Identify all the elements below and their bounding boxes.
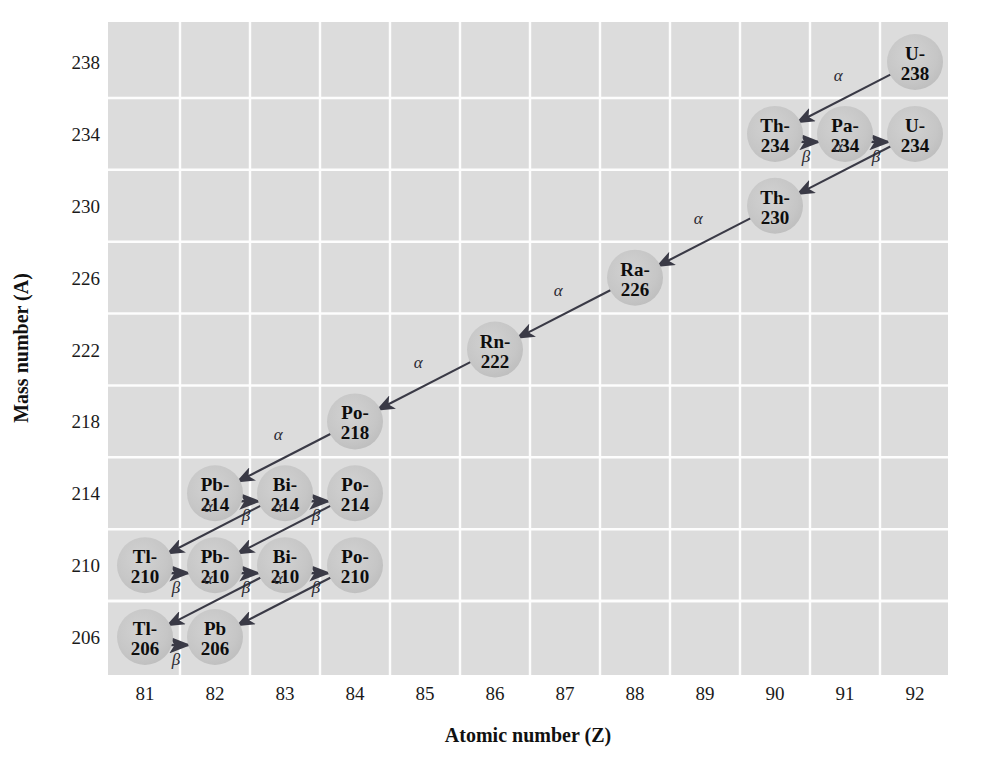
node-label-element: Po- <box>341 474 368 495</box>
isotope-node-u234[interactable]: U-234 <box>887 106 943 162</box>
node-label-element: Ra- <box>620 259 650 280</box>
node-label-mass: 210 <box>341 566 370 587</box>
node-label-mass: 234 <box>901 135 930 156</box>
isotope-node-po214[interactable]: Po-214 <box>327 465 383 521</box>
x-tick-label: 85 <box>416 683 435 704</box>
node-label-element: Pb- <box>201 474 230 495</box>
node-label-mass: 206 <box>201 638 230 659</box>
x-tick-label: 86 <box>486 683 505 704</box>
node-label-mass: 230 <box>761 207 790 228</box>
x-tick-label: 82 <box>206 683 225 704</box>
decay-label-alpha: α <box>274 569 284 588</box>
node-label-mass: 214 <box>341 494 370 515</box>
decay-label-alpha: α <box>274 425 284 444</box>
decay-label-beta: β <box>241 578 251 597</box>
node-label-element: U- <box>905 115 925 136</box>
node-label-element: Th- <box>760 115 790 136</box>
decay-label-beta: β <box>171 578 181 597</box>
isotope-node-pb214[interactable]: Pb-214 <box>187 465 243 521</box>
node-label-mass: 222 <box>481 351 510 372</box>
x-tick-label: 90 <box>766 683 785 704</box>
decay-label-beta: β <box>801 147 811 166</box>
y-tick-label: 214 <box>72 483 101 504</box>
decay-label-alpha: α <box>204 569 214 588</box>
node-label-mass: 206 <box>131 638 160 659</box>
decay-label-alpha: α <box>414 353 424 372</box>
node-label-element: Pa- <box>831 115 858 136</box>
y-tick-label: 238 <box>72 52 101 73</box>
x-tick-label: 91 <box>836 683 855 704</box>
node-label-mass: 238 <box>901 63 930 84</box>
decay-label-alpha: α <box>204 497 214 516</box>
decay-label-beta: β <box>171 650 181 669</box>
decay-label-alpha: α <box>554 281 564 300</box>
y-tick-label: 206 <box>72 627 101 648</box>
isotope-node-pa234[interactable]: Pa-234 <box>817 106 873 162</box>
y-tick-label: 222 <box>72 340 101 361</box>
node-label-mass: 234 <box>761 135 790 156</box>
node-label-element: U- <box>905 43 925 64</box>
node-label-element: Bi- <box>273 474 297 495</box>
x-tick-label: 81 <box>136 683 155 704</box>
node-label-element: Pb- <box>201 546 230 567</box>
x-tick-label: 84 <box>346 683 366 704</box>
decay-label-beta: β <box>311 578 321 597</box>
y-tick-label: 210 <box>72 555 101 576</box>
y-tick-label: 234 <box>72 124 101 145</box>
x-tick-label: 83 <box>276 683 295 704</box>
y-axis-title: Mass number (A) <box>10 273 33 423</box>
isotope-node-bi214[interactable]: Bi-214 <box>257 465 313 521</box>
isotope-node-rn222[interactable]: Rn-222 <box>467 322 523 378</box>
decay-label-alpha: α <box>274 497 284 516</box>
decay-label-alpha: α <box>834 66 844 85</box>
y-tick-label: 230 <box>72 196 101 217</box>
node-label-element: Po- <box>341 402 368 423</box>
node-label-mass: 226 <box>621 279 650 300</box>
decay-series-figure: 238234230226222218214210206 818283848586… <box>0 0 992 770</box>
node-label-element: Rn- <box>480 331 511 352</box>
isotope-node-th230[interactable]: Th-230 <box>747 178 803 234</box>
x-axis-title: Atomic number (Z) <box>445 724 611 747</box>
isotope-node-po210[interactable]: Po-210 <box>327 537 383 593</box>
isotope-node-pb206[interactable]: Pb206 <box>187 609 243 665</box>
isotope-node-ra226[interactable]: Ra-226 <box>607 250 663 306</box>
node-label-element: Bi- <box>273 546 297 567</box>
node-label-element: Po- <box>341 546 368 567</box>
node-label-element: Tl- <box>133 546 157 567</box>
isotope-node-tl210[interactable]: Tl-210 <box>117 537 173 593</box>
decay-label-alpha: α <box>694 209 704 228</box>
decay-label-alpha: α <box>834 137 844 156</box>
y-tick-label: 226 <box>72 268 101 289</box>
x-tick-label: 88 <box>626 683 645 704</box>
isotope-node-pb210[interactable]: Pb-210 <box>187 537 243 593</box>
x-tick-label: 87 <box>556 683 575 704</box>
y-tick-label: 218 <box>72 411 101 432</box>
node-label-mass: 210 <box>131 566 160 587</box>
isotope-node-po218[interactable]: Po-218 <box>327 393 383 449</box>
y-axis-ticks: 238234230226222218214210206 <box>72 52 101 648</box>
decay-label-beta: β <box>871 147 881 166</box>
node-label-mass: 218 <box>341 422 370 443</box>
node-label-element: Tl- <box>133 618 157 639</box>
decay-label-beta: β <box>311 506 321 525</box>
x-tick-label: 89 <box>696 683 715 704</box>
isotope-node-th234[interactable]: Th-234 <box>747 106 803 162</box>
decay-label-beta: β <box>241 506 251 525</box>
node-label-element: Th- <box>760 187 790 208</box>
node-label-element: Pb <box>204 618 226 639</box>
decay-series-chart: 238234230226222218214210206 818283848586… <box>0 0 992 770</box>
isotope-node-bi210[interactable]: Bi-210 <box>257 537 313 593</box>
isotope-node-tl206[interactable]: Tl-206 <box>117 609 173 665</box>
x-tick-label: 92 <box>906 683 925 704</box>
isotope-node-u238[interactable]: U-238 <box>887 34 943 90</box>
